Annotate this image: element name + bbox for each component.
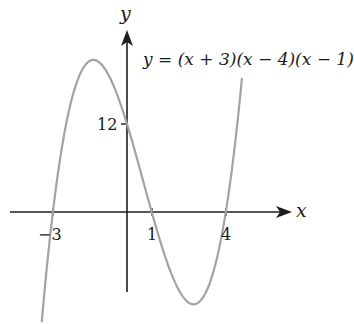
x-tick-label-1: 1	[147, 227, 157, 243]
x-axis-label: x	[296, 201, 307, 220]
x-tick-label-neg3: −3	[38, 227, 62, 243]
equation-label: y = (x + 3)(x − 4)(x − 1)	[143, 51, 354, 68]
y-axis-label: y	[120, 4, 131, 23]
cubic-curve	[42, 60, 242, 321]
y-tick-label-12: 12	[97, 117, 117, 133]
x-tick-label-4: 4	[221, 227, 231, 243]
